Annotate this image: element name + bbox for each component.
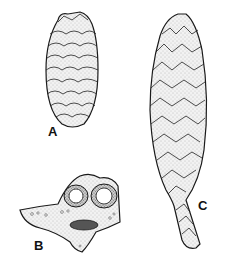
cone-c [150,14,207,248]
panel-label-b: B [34,238,43,253]
panel-label-c: C [198,198,207,213]
cone-a [46,12,98,127]
botanical-illustration [0,0,242,278]
panel-label-a: A [48,124,57,139]
